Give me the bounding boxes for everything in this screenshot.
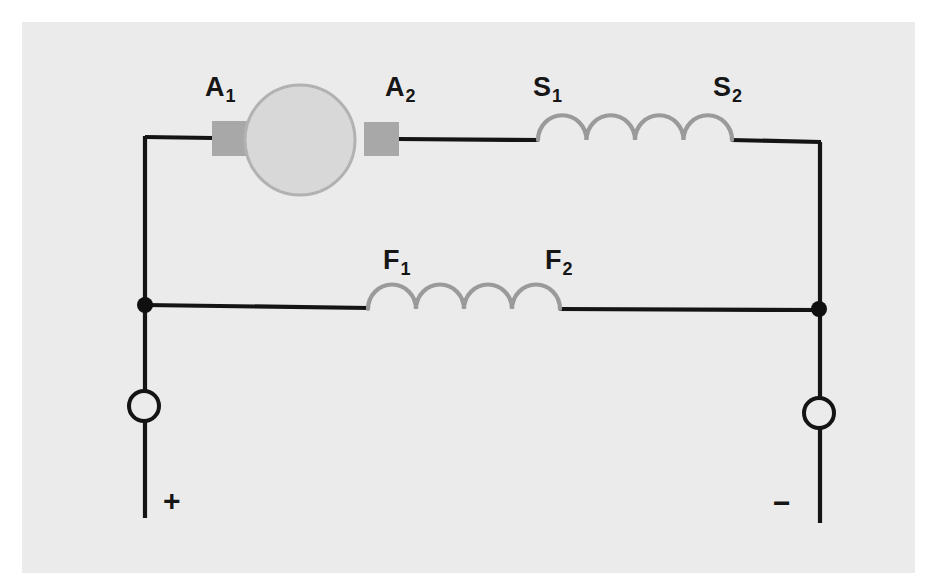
label-positive-terminal: + [163,484,181,517]
circuit-diagram-svg: A1 A2 S1 S2 F1 F2 + − [0,0,940,587]
terminal-circle-negative [804,398,834,428]
armature-circle [245,85,355,195]
terminal-circle-positive [129,391,159,421]
wire-series-to-corner [731,140,821,142]
junction-dot-right [811,301,827,317]
circuit-diagram-canvas: A1 A2 S1 S2 F1 F2 + − [0,0,940,587]
wire-top-left [145,137,213,138]
wire-armature-to-series [398,139,539,140]
label-negative-terminal: − [773,486,791,519]
brush-right [364,122,399,156]
wire-shunt-to-right [559,309,820,310]
wire-left-to-shunt [145,305,369,308]
junction-dot-left [137,297,153,313]
